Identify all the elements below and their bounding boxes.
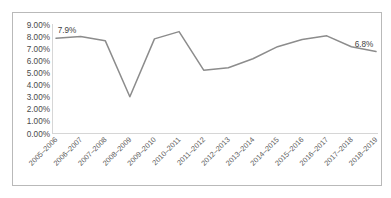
y-axis-tick-label: 7.00% [27, 45, 50, 54]
series-line-percentage [56, 32, 376, 97]
y-axis-tick-labels: 0.00%1.00%2.00%3.00%4.00%5.00%6.00%7.00%… [27, 21, 50, 139]
x-axis-tick-labels: 2005–20062006–20072007–20082008–20092009… [27, 135, 380, 168]
y-axis-tick-label: 1.00% [27, 117, 50, 126]
y-axis-tick-label: 6.00% [27, 57, 50, 66]
data-point-label: 6.8% [355, 40, 374, 49]
y-axis-tick-label: 4.00% [27, 81, 50, 90]
data-point-labels: 7.9%6.8% [58, 26, 374, 48]
y-axis-tick-label: 0.00% [27, 130, 50, 139]
data-point-label: 7.9% [58, 26, 77, 35]
y-axis-tick-label: 8.00% [27, 33, 50, 42]
line-chart-plot: 0.00%1.00%2.00%3.00%4.00%5.00%6.00%7.00%… [0, 0, 391, 198]
y-axis-tick-label: 3.00% [27, 93, 50, 102]
chart-figure: 0.00%1.00%2.00%3.00%4.00%5.00%6.00%7.00%… [0, 0, 391, 198]
y-axis-tick-label: 9.00% [27, 21, 50, 30]
data-series-group [56, 32, 376, 97]
y-axis-tick-label: 5.00% [27, 69, 50, 78]
y-axis-tick-label: 2.00% [27, 105, 50, 114]
